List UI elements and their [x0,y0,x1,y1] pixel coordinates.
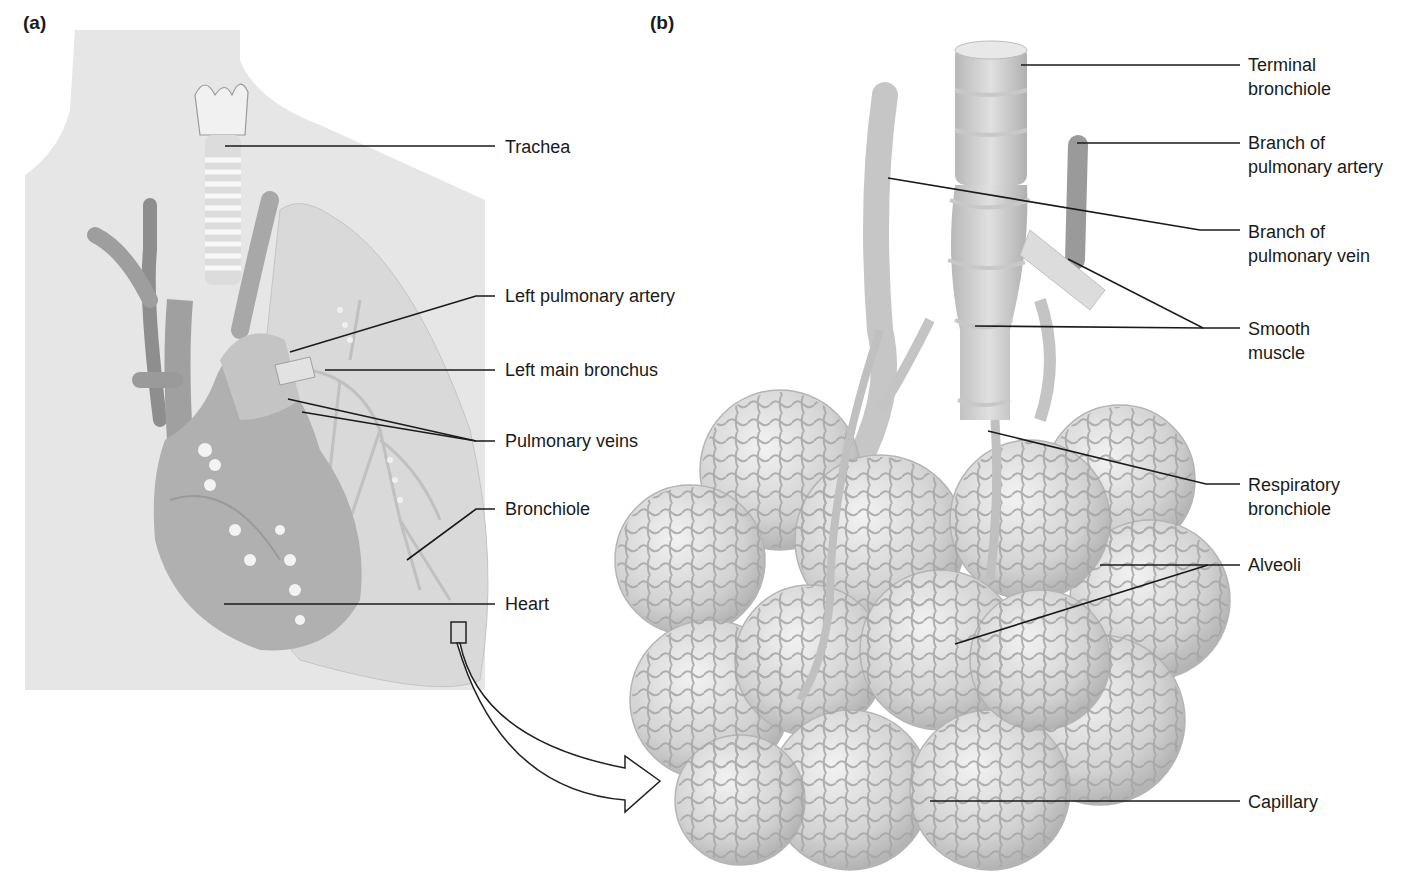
label-line: Alveoli [1248,553,1301,577]
panel-b-label: (b) [650,12,674,34]
label-line: Capillary [1248,790,1318,814]
label-left-pulmonary-artery: Left pulmonary artery [505,284,675,308]
anatomy-illustration [0,0,1407,888]
label-line: Branch of [1248,220,1370,244]
panel-a-label: (a) [23,12,46,34]
label-smooth-muscle: Smooth muscle [1248,317,1310,365]
label-alveoli: Alveoli [1248,553,1301,577]
label-line: muscle [1248,341,1310,365]
label-line: bronchiole [1248,497,1340,521]
label-capillary: Capillary [1248,790,1318,814]
label-branch-of-pulmonary-vein: Branch of pulmonary vein [1248,220,1370,268]
label-bronchiole: Bronchiole [505,497,590,521]
label-heart: Heart [505,592,549,616]
label-left-main-bronchus: Left main bronchus [505,358,658,382]
label-trachea: Trachea [505,135,570,159]
label-line: pulmonary artery [1248,155,1383,179]
label-line: Smooth [1248,317,1310,341]
label-line: Branch of [1248,131,1383,155]
label-terminal-bronchiole: Terminal bronchiole [1248,53,1331,101]
label-line: pulmonary vein [1248,244,1370,268]
label-line: Respiratory [1248,473,1340,497]
alveolar-sac-illustration [615,41,1230,870]
label-respiratory-bronchiole: Respiratory bronchiole [1248,473,1340,521]
label-line: bronchiole [1248,77,1331,101]
label-branch-of-pulmonary-artery: Branch of pulmonary artery [1248,131,1383,179]
label-pulmonary-veins: Pulmonary veins [505,429,638,453]
label-line: Terminal [1248,53,1331,77]
